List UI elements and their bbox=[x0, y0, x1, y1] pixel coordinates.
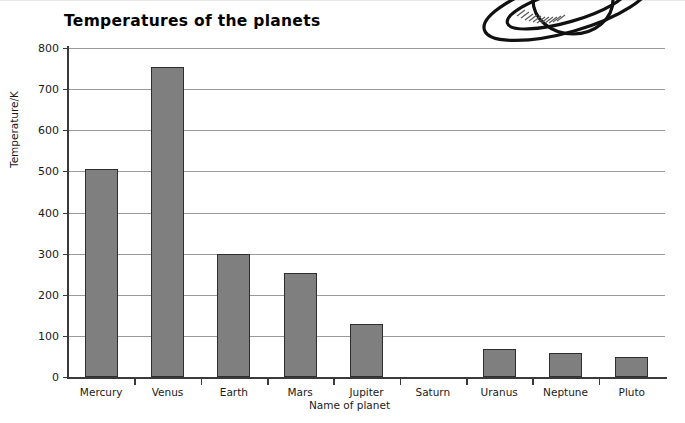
x-axis-tick-mark bbox=[333, 379, 335, 385]
bar-uranus bbox=[483, 349, 516, 377]
x-axis-title: Name of planet bbox=[0, 399, 685, 411]
x-axis-label-mercury: Mercury bbox=[80, 386, 123, 398]
x-axis-label-neptune: Neptune bbox=[543, 386, 588, 398]
y-axis-tick-label: 0 bbox=[52, 371, 59, 384]
x-axis-tick-mark bbox=[532, 379, 534, 385]
y-axis-tick-mark bbox=[63, 254, 69, 255]
y-axis-tick-label: 200 bbox=[38, 288, 59, 301]
x-axis-tick-mark bbox=[134, 379, 136, 385]
bar-earth bbox=[217, 254, 250, 377]
x-axis-label-pluto: Pluto bbox=[619, 386, 645, 398]
x-axis-label-uranus: Uranus bbox=[481, 386, 518, 398]
x-axis-line bbox=[67, 377, 667, 379]
bar-mars bbox=[284, 273, 317, 377]
y-axis-tick-mark bbox=[63, 377, 69, 378]
gridline bbox=[68, 48, 665, 49]
x-axis-tick-mark bbox=[466, 379, 468, 385]
y-axis-title: Temperature/K bbox=[8, 91, 20, 168]
bar-pluto bbox=[615, 357, 648, 377]
bar-jupiter bbox=[350, 324, 383, 377]
y-axis-tick-mark bbox=[63, 213, 69, 214]
y-axis-tick-label: 500 bbox=[38, 165, 59, 178]
y-axis-tick-label: 800 bbox=[38, 42, 59, 55]
y-axis-tick-mark bbox=[63, 336, 69, 337]
y-axis-tick-label: 300 bbox=[38, 247, 59, 260]
x-axis-tick-mark bbox=[400, 379, 402, 385]
y-axis-tick-mark bbox=[63, 130, 69, 131]
y-axis-tick-mark bbox=[63, 89, 69, 90]
page-top-rule bbox=[0, 0, 685, 1]
y-axis-tick-mark bbox=[63, 171, 69, 172]
chart-title: Temperatures of the planets bbox=[64, 12, 444, 30]
x-axis-label-earth: Earth bbox=[220, 386, 248, 398]
plot-area: 8007006005004003002001000 bbox=[68, 48, 665, 377]
x-axis-tick-mark bbox=[201, 379, 203, 385]
bar-neptune bbox=[549, 353, 582, 377]
x-axis-tick-mark bbox=[599, 379, 601, 385]
y-axis-tick-label: 600 bbox=[38, 124, 59, 137]
y-axis-tick-label: 100 bbox=[38, 329, 59, 342]
bar-mercury bbox=[85, 169, 118, 377]
x-axis-title-text: Name of planet bbox=[309, 399, 390, 411]
chart-figure: Temperatures of the planets Temperature/… bbox=[0, 0, 685, 423]
y-axis-tick-mark bbox=[63, 48, 69, 49]
saturn-planet-illustration bbox=[455, 0, 685, 46]
y-axis-tick-label: 400 bbox=[38, 206, 59, 219]
x-axis-tick-mark bbox=[267, 379, 269, 385]
y-axis-tick-mark bbox=[63, 295, 69, 296]
y-axis-tick-label: 700 bbox=[38, 83, 59, 96]
x-axis-label-jupiter: Jupiter bbox=[349, 386, 383, 398]
bar-venus bbox=[151, 67, 184, 377]
x-axis-label-venus: Venus bbox=[152, 386, 184, 398]
x-axis-label-mars: Mars bbox=[288, 386, 313, 398]
x-axis-label-saturn: Saturn bbox=[415, 386, 450, 398]
